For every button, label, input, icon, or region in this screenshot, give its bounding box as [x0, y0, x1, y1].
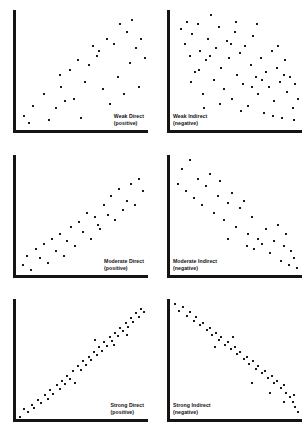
- data-point: [213, 212, 215, 214]
- data-point: [236, 74, 238, 76]
- data-point: [177, 183, 179, 185]
- data-point: [276, 67, 278, 69]
- data-point: [261, 79, 263, 81]
- data-point: [80, 369, 82, 371]
- data-point: [232, 336, 234, 338]
- data-point: [252, 360, 254, 362]
- data-point: [264, 370, 266, 372]
- data-point: [130, 183, 132, 185]
- data-point: [134, 204, 136, 206]
- data-point: [226, 40, 228, 42]
- data-point: [253, 248, 255, 250]
- data-point: [66, 240, 68, 242]
- data-point: [96, 354, 98, 356]
- data-point: [297, 411, 299, 413]
- data-point: [117, 76, 119, 78]
- data-point: [230, 43, 232, 45]
- data-point: [178, 310, 180, 312]
- data-point: [202, 93, 204, 95]
- data-point: [269, 392, 271, 394]
- data-point: [219, 180, 221, 182]
- data-point: [197, 23, 199, 25]
- data-point: [26, 255, 28, 257]
- x-axis-line: [167, 275, 302, 278]
- data-point: [82, 360, 84, 362]
- data-point: [189, 311, 191, 313]
- data-point: [277, 45, 279, 47]
- data-point: [28, 122, 30, 124]
- data-point: [296, 267, 298, 269]
- data-point: [283, 401, 285, 403]
- data-point: [130, 317, 132, 319]
- data-point: [292, 401, 294, 403]
- panel-caption-subtitle: (negative): [173, 265, 217, 271]
- data-point: [205, 59, 207, 61]
- data-point: [47, 398, 49, 400]
- data-point: [290, 250, 292, 252]
- data-point: [263, 112, 265, 114]
- data-point: [193, 197, 195, 199]
- data-point: [59, 74, 61, 76]
- panel-caption-title: Moderate Direct: [104, 258, 144, 264]
- data-point: [191, 33, 193, 35]
- panel-caption: Strong Indirect(negative): [173, 402, 211, 415]
- data-point: [102, 88, 104, 90]
- data-point: [197, 178, 199, 180]
- data-point: [126, 200, 128, 202]
- data-point: [252, 35, 254, 37]
- data-point: [288, 264, 290, 266]
- data-point: [223, 88, 225, 90]
- data-point: [123, 93, 125, 95]
- data-point: [273, 240, 275, 242]
- data-point: [283, 74, 285, 76]
- data-points-layer: [16, 155, 148, 275]
- data-point: [217, 195, 219, 197]
- data-point: [78, 221, 80, 223]
- data-point: [279, 81, 281, 83]
- data-point: [268, 86, 270, 88]
- data-point: [110, 195, 112, 197]
- data-point: [27, 411, 29, 413]
- data-point: [59, 388, 61, 390]
- data-point: [207, 38, 209, 40]
- data-point: [70, 226, 72, 228]
- scatter-plot-grid: Weak Direct(positive)Weak Indirect(negat…: [0, 0, 308, 434]
- data-point: [85, 364, 87, 366]
- data-point: [22, 264, 24, 266]
- data-point: [98, 50, 100, 52]
- data-point: [257, 93, 259, 95]
- data-point: [69, 378, 71, 380]
- panel-caption: Moderate Indirect(negative): [173, 258, 217, 271]
- data-point: [214, 346, 216, 348]
- data-point: [19, 416, 21, 418]
- data-point: [103, 204, 105, 206]
- data-point: [189, 159, 191, 161]
- data-point: [213, 79, 215, 81]
- data-point: [293, 257, 295, 259]
- data-point: [98, 346, 100, 348]
- data-point: [109, 336, 111, 338]
- data-point: [69, 69, 71, 71]
- data-point: [51, 238, 53, 240]
- data-point: [227, 341, 229, 343]
- data-point: [118, 188, 120, 190]
- data-point: [144, 57, 146, 59]
- data-point: [186, 21, 188, 23]
- data-point: [294, 83, 296, 85]
- data-point: [218, 339, 220, 341]
- data-point: [37, 399, 39, 401]
- data-point: [284, 59, 286, 61]
- data-point: [193, 320, 195, 322]
- panel-caption-title: Weak Direct: [114, 113, 144, 119]
- data-point: [267, 377, 269, 379]
- data-point: [209, 327, 211, 329]
- data-point: [32, 105, 34, 107]
- panel-caption-title: Moderate Indirect: [173, 258, 217, 264]
- data-point: [140, 308, 142, 310]
- data-point: [231, 192, 233, 194]
- data-point: [106, 345, 108, 347]
- data-points-layer: [16, 10, 148, 130]
- panel-caption-title: Strong Indirect: [173, 402, 211, 408]
- panel-caption-title: Strong Direct: [110, 402, 144, 408]
- data-point: [129, 62, 131, 64]
